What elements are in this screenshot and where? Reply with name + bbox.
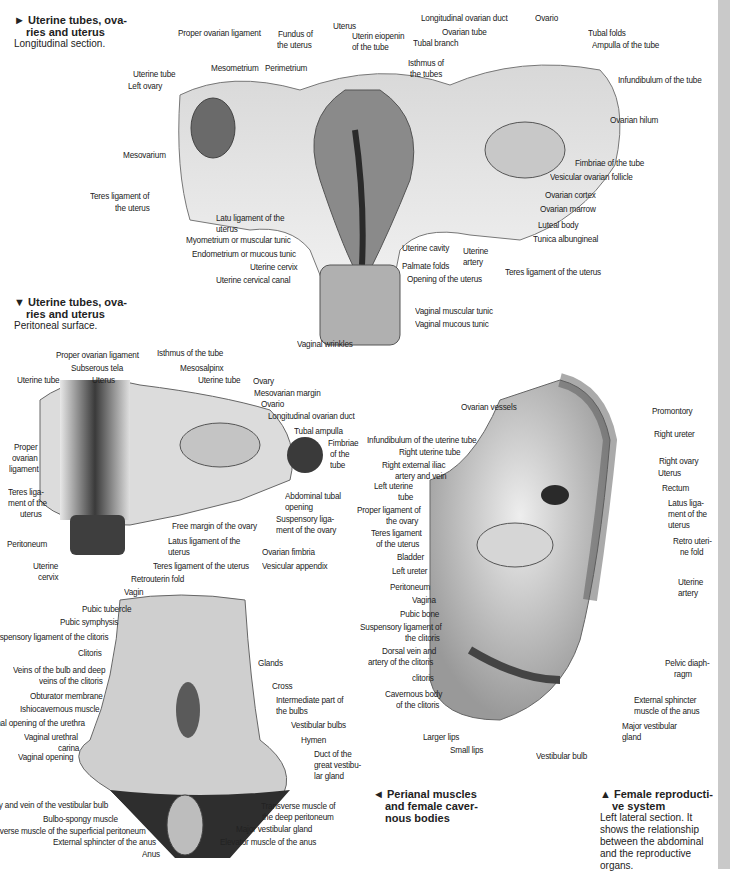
label: lar gland (314, 770, 344, 781)
label: Vaginal muscular tunic (415, 305, 493, 316)
label: Vesicular appendix (262, 560, 327, 571)
label: Latu ligament of the (216, 212, 284, 223)
label: of the uterus (376, 538, 419, 549)
label: Teres ligament of the uterus (153, 560, 249, 571)
label: Left ovary (128, 80, 162, 91)
label: Rectum (662, 482, 689, 493)
label: Artery and vein of the vestibular bulb (0, 799, 108, 810)
caption-desc: Longitudinal section. (14, 38, 127, 50)
label: Perimetrium (265, 62, 307, 73)
label: Ovarian tube (442, 26, 487, 37)
label: Latus liga- (668, 497, 704, 508)
label: Ovary (253, 375, 274, 386)
label: tube (398, 491, 413, 502)
label: Ampulla of the tube (592, 39, 659, 50)
label: Isthmus of the tube (157, 347, 223, 358)
label: Endometrium or mucous tunic (192, 248, 296, 259)
label: Uterine tube (17, 374, 59, 385)
label: artery of the clitoris (368, 656, 433, 667)
label: the uterus (115, 202, 150, 213)
caption-title: Female reproducti- (614, 788, 713, 800)
arrow-down-icon: ▼ (14, 296, 25, 308)
caption-fig1: ► Uterine tubes, ova-ries and uterus Lon… (14, 14, 127, 50)
label: Uterine cervical canal (216, 274, 290, 285)
label: Elevator muscle of the anus (220, 836, 316, 847)
label: Tubal folds (588, 27, 626, 38)
label: Uterine (678, 576, 703, 587)
label: Vaginal urethral (24, 731, 78, 742)
label: the clitoris (405, 632, 440, 643)
label: Uterine (33, 560, 58, 571)
label: ment of the (8, 497, 47, 508)
label: Proper ovarian ligament (178, 27, 261, 38)
label: Uterus (658, 467, 681, 478)
label: Ovarian marrow (540, 203, 596, 214)
label: Bulbo-spongy muscle (43, 813, 118, 824)
label: Anus (142, 848, 160, 859)
label: Transverse muscle of (261, 800, 335, 811)
caption-title-cont: and female caver- (373, 800, 478, 812)
label: Major vestibular gland (236, 823, 312, 834)
label: Right ureter (654, 428, 695, 439)
label: Clitoris (78, 647, 102, 658)
label: Teres liga- (8, 486, 44, 497)
label: Teres ligament of the uterus (505, 266, 601, 277)
label: Vaginal mucous tunic (415, 318, 489, 329)
label: Mesovarium (123, 149, 166, 160)
caption-fig3: ◄ Perianal musclesand female caver-nous … (373, 788, 478, 824)
label: Small lips (450, 744, 483, 755)
fig4-illustration (430, 380, 610, 720)
label: ment of the (668, 508, 707, 519)
label: uterus (216, 223, 238, 234)
caption-desc: Left lateral section. It (600, 812, 713, 824)
caption-title-cont: ries and uterus (14, 26, 127, 38)
label: Proper (14, 441, 38, 452)
label: Tunica albungineal (533, 233, 598, 244)
label: Ishiocavernous muscle (20, 703, 99, 714)
label: ment of the ovary (276, 524, 336, 535)
label: Transverse muscle of the superficial per… (0, 825, 146, 836)
label: Veins of the bulb and deep (13, 664, 105, 675)
label: Bladder (397, 551, 424, 562)
label: Suspensory ligament of (360, 621, 442, 632)
label: Tubal ampulla (294, 425, 343, 436)
label: Ovario (261, 398, 284, 409)
label: Right external iliac (382, 459, 445, 470)
label: artery (678, 587, 698, 598)
label: Vagin (124, 586, 143, 597)
label: Ovarian fimbria (262, 546, 315, 557)
label: Peritoneum (7, 538, 47, 549)
caption-title-cont: ries and uterus (14, 308, 127, 320)
label: Retrouterin fold (131, 573, 184, 584)
label: Ovario (535, 12, 558, 23)
label: Duct of the (314, 748, 352, 759)
label: the tubes (410, 68, 442, 79)
label: Fimbriae (328, 437, 358, 448)
label: the deep peritoneum (262, 811, 334, 822)
label: ovarian (12, 452, 38, 463)
label: External opening of the urethra (0, 717, 85, 728)
label: Mesovarian margin (254, 387, 321, 398)
caption-desc: between the abdominal (600, 836, 713, 848)
label: Longitudinal ovarian duct (268, 410, 355, 421)
label: Vaginal wrinkles (297, 338, 353, 349)
label: the ovary (386, 515, 418, 526)
label: Obturator membrane (30, 690, 103, 701)
arrow-up-icon: ▲ (600, 788, 611, 800)
label: Opening of the uterus (407, 273, 482, 284)
label: Vesicular ovarian follicle (550, 171, 633, 182)
label: uterus (168, 546, 190, 557)
label: of the (330, 448, 349, 459)
caption-desc: organs. (600, 860, 713, 872)
label: External sphincter (634, 694, 696, 705)
label: Hymen (301, 734, 326, 745)
label: uterus (20, 508, 42, 519)
label: muscle of the anus (634, 705, 699, 716)
label: Left ureter (392, 565, 427, 576)
label: Infundibulum of the tube (618, 74, 702, 85)
label: Dorsal vein and (382, 645, 436, 656)
label: Fimbriae of the tube (575, 157, 644, 168)
label: Uterine cavity (402, 242, 449, 253)
label: Mesometrium (211, 62, 259, 73)
label: Ovarian vessels (461, 401, 517, 412)
